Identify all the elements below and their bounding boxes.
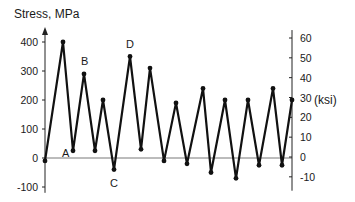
right-tick-label: 0	[300, 151, 306, 163]
left-axis-title: Stress, MPa	[14, 7, 80, 21]
data-point	[112, 167, 117, 172]
data-point	[61, 40, 66, 45]
left-tick-label: 200	[20, 94, 38, 106]
data-point	[128, 54, 133, 59]
right-tick-label: 50	[300, 52, 312, 64]
left-tick-label: -100	[17, 181, 38, 193]
left-tick-label: 300	[20, 65, 38, 77]
data-point	[139, 147, 144, 152]
data-point	[280, 163, 285, 168]
left-tick-label: 100	[20, 123, 38, 135]
data-point	[71, 148, 76, 153]
data-point	[43, 159, 48, 164]
data-point	[185, 161, 190, 166]
data-point	[290, 98, 295, 103]
left-axis-arrow-icon	[42, 27, 48, 35]
right-tick-label: 20	[300, 111, 312, 123]
right-tick-label: 10	[300, 131, 312, 143]
data-point	[148, 66, 153, 71]
data-point	[82, 72, 87, 77]
data-point	[174, 101, 179, 106]
data-point	[257, 163, 262, 168]
left-tick-label: 400	[20, 36, 38, 48]
right-tick-label: 60	[300, 32, 312, 44]
right-tick-label: -10	[300, 171, 315, 183]
annotations: ABCD	[62, 38, 134, 189]
data-point	[93, 148, 98, 153]
data-point	[201, 86, 206, 91]
data-point	[234, 176, 239, 181]
right-axis-unit: (ksi)	[314, 93, 337, 107]
data-point	[223, 98, 228, 103]
left-tick-label: 0	[32, 152, 38, 164]
annotation-c: C	[110, 177, 118, 189]
data-point	[101, 98, 106, 103]
right-tick-label: 40	[300, 72, 312, 84]
data-point	[162, 159, 167, 164]
data-point	[209, 170, 214, 175]
stress-history-chart: Stress, MPa4003002001000-100605040302010…	[0, 0, 355, 202]
right-tick-label: 30	[300, 92, 312, 104]
annotation-a: A	[62, 147, 70, 159]
axes: Stress, MPa4003002001000-100605040302010…	[14, 7, 337, 193]
annotation-b: B	[81, 55, 88, 67]
annotation-d: D	[126, 38, 134, 50]
data-point	[271, 86, 276, 91]
data-point	[246, 98, 251, 103]
